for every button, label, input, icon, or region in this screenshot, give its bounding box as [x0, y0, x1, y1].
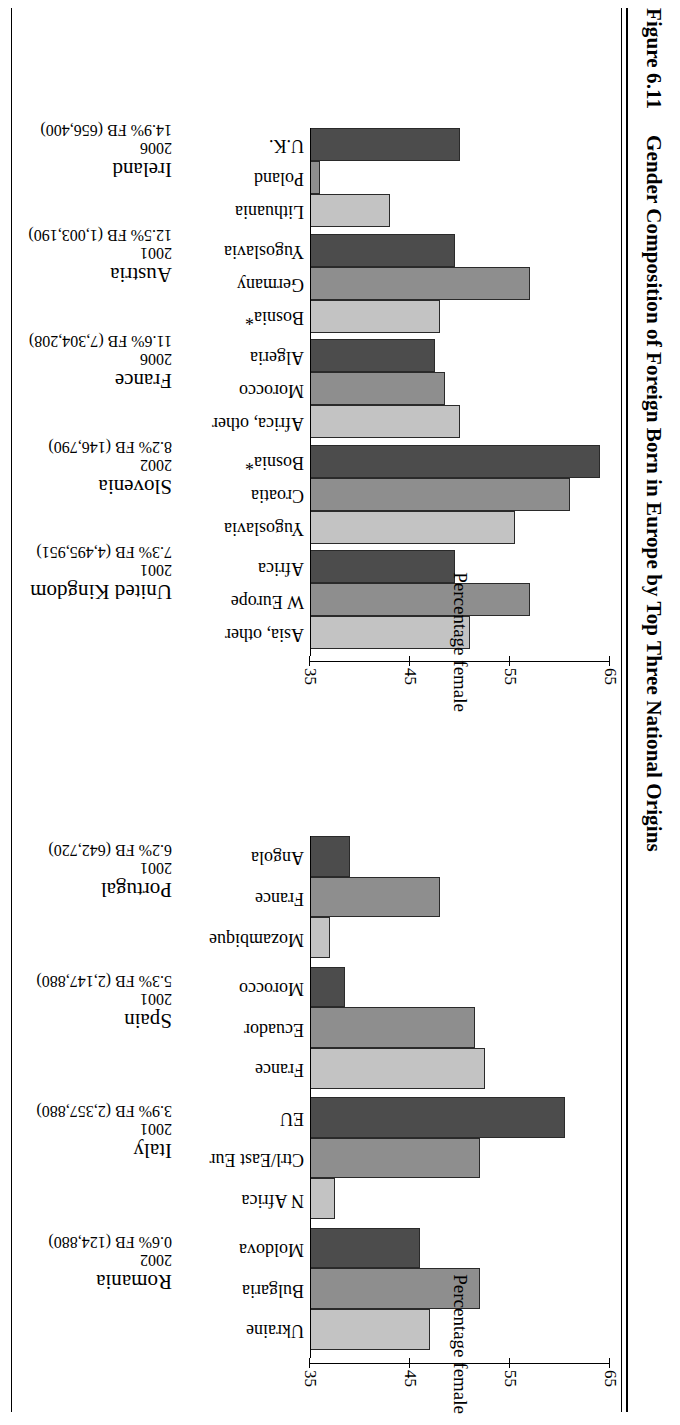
category-label-cell: W Europe	[178, 583, 308, 616]
country-label-group: Portugal20016.2% FB (642,720)	[48, 841, 172, 901]
country-block: Austria200112.5% FB (1,003,190)	[28, 234, 178, 340]
title-rule-thin	[621, 8, 622, 1412]
category-label-cell: Africa, other	[178, 405, 308, 438]
category-label: Moldova	[239, 1238, 304, 1259]
country-year: 2001	[36, 990, 172, 1008]
bottom-rule	[11, 8, 12, 1412]
country-year: 2001	[48, 859, 172, 877]
y-axis-title: Percentage female	[449, 1274, 471, 1414]
country-block: United Kingdom20017.3% FB (4,495,951)	[28, 550, 178, 656]
bar	[310, 1309, 430, 1350]
x-axis-line	[310, 836, 311, 1358]
category-label: Germany	[237, 274, 304, 295]
category-label-row: U.K.PolandLithuaniaYugoslaviaGermanyBosn…	[178, 128, 308, 656]
y-axis-title: Percentage female	[449, 572, 471, 712]
bar	[310, 1048, 485, 1089]
category-label-cell: Bosnia*	[178, 300, 308, 333]
country-year: 2001	[36, 1120, 172, 1138]
country-label-group: Austria200112.5% FB (1,003,190)	[28, 226, 172, 286]
country-name: Portugal	[48, 878, 172, 902]
category-label: France	[255, 888, 304, 909]
category-label: Angola	[251, 847, 304, 868]
country-foreign-born-stat: 3.9% FB (2,357,880)	[36, 1102, 172, 1120]
category-label: Mozambique	[209, 928, 304, 949]
category-label-cell: Bulgaria	[178, 1268, 308, 1309]
category-label-cell: Angola	[178, 836, 308, 877]
country-year: 2006	[40, 139, 172, 157]
category-label-cell: France	[178, 877, 308, 918]
country-foreign-born-stat: 6.2% FB (642,720)	[48, 841, 172, 859]
category-label: U.K.	[269, 135, 304, 156]
country-year: 2006	[29, 350, 172, 368]
bar-group	[310, 339, 610, 445]
category-label: Poland	[254, 168, 304, 189]
country-year: 2001	[28, 244, 172, 262]
category-label: Morocco	[239, 977, 304, 998]
y-axis-tick	[309, 656, 310, 666]
country-label-group: Romania20020.6% FB (124,880)	[48, 1232, 172, 1292]
country-name: Spain	[36, 1008, 172, 1032]
category-label-cell: Poland	[178, 161, 308, 194]
figure-page: Figure 6.11 Gender Composition of Foreig…	[0, 0, 680, 1425]
country-name: Romania	[48, 1269, 172, 1293]
category-label-row: AngolaFranceMozambiqueMoroccoEcuadorFran…	[178, 836, 308, 1358]
category-label-cell: Africa	[178, 550, 308, 583]
y-axis-tick-label: 45	[400, 668, 420, 685]
bar-group	[310, 128, 610, 234]
country-foreign-born-stat: 8.2% FB (146,790)	[48, 437, 172, 455]
category-group: YugoslaviaGermanyBosnia*	[178, 234, 308, 340]
bar-group	[310, 836, 610, 967]
y-axis-tick	[609, 656, 610, 666]
category-group: AlgeriaMoroccoAfrica, other	[178, 339, 308, 445]
country-name: United Kingdom	[30, 580, 172, 604]
bar-group	[310, 967, 610, 1098]
category-label-cell: Croatia	[178, 478, 308, 511]
bar-group	[310, 445, 610, 551]
country-foreign-born-stat: 7.3% FB (4,495,951)	[30, 543, 172, 561]
country-block: Ireland200614.9% FB (656,400)	[28, 128, 178, 234]
bar	[310, 267, 530, 300]
country-label-group: Ireland200614.9% FB (656,400)	[40, 121, 172, 181]
country-foreign-born-stat: 0.6% FB (124,880)	[48, 1232, 172, 1250]
category-label: Croatia	[251, 485, 304, 506]
bar	[310, 1228, 420, 1269]
bar	[310, 300, 440, 333]
category-label: Bosnia*	[245, 307, 304, 328]
y-axis-tick	[609, 1358, 610, 1368]
category-label-cell: France	[178, 1048, 308, 1089]
bar	[310, 234, 455, 267]
y-axis-tick	[409, 656, 410, 666]
category-label: Africa, other	[212, 412, 304, 433]
y-axis-tick-label: 55	[500, 1370, 520, 1387]
country-label-group: Spain20015.3% FB (2,147,880)	[36, 971, 172, 1031]
y-axis-tick	[509, 1358, 510, 1368]
category-label: Bulgaria	[242, 1279, 304, 1300]
category-label: Yugoslavia	[224, 241, 304, 262]
y-axis-tick	[409, 1358, 410, 1368]
page-title: Gender Composition of Foreign Born in Eu…	[641, 135, 666, 852]
category-label-cell: Morocco	[178, 967, 308, 1008]
country-foreign-born-stat: 11.6% FB (7,304,208)	[29, 332, 172, 350]
country-block: France200611.6% FB (7,304,208)	[28, 339, 178, 445]
bar	[310, 1138, 480, 1179]
y-axis-tick-label: 35	[300, 1370, 320, 1387]
category-label-cell: N Africa	[178, 1178, 308, 1219]
bar-group	[310, 234, 610, 340]
y-axis-tick-label: 35	[300, 668, 320, 685]
bar	[310, 550, 455, 583]
bar	[310, 161, 320, 194]
category-label: Yugoslavia	[224, 518, 304, 539]
category-label-cell: Bosnia*	[178, 445, 308, 478]
category-label-cell: Yugoslavia	[178, 511, 308, 544]
category-label: Lithuania	[235, 201, 304, 222]
category-label-cell: Ukraine	[178, 1309, 308, 1350]
category-group: AngolaFranceMozambique	[178, 836, 308, 967]
bar	[310, 128, 460, 161]
figure-title-row: Figure 6.11 Gender Composition of Foreig…	[641, 8, 666, 852]
country-name: Slovenia	[48, 474, 172, 498]
category-label: EU	[280, 1108, 304, 1129]
category-label-cell: EU	[178, 1097, 308, 1138]
country-label-group: France200611.6% FB (7,304,208)	[29, 332, 172, 392]
category-group: U.K.PolandLithuania	[178, 128, 308, 234]
category-label: Ctrl/East Eur	[210, 1149, 304, 1170]
